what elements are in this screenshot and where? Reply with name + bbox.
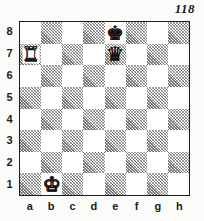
file-label-d: d (83, 199, 104, 213)
square-g2[interactable] (147, 152, 168, 174)
rank-label-5: 5 (3, 87, 16, 109)
square-e4[interactable] (105, 109, 126, 131)
square-e2[interactable] (105, 152, 126, 174)
black-king-e8[interactable]: ♚ (106, 23, 124, 43)
square-a8[interactable] (20, 22, 41, 44)
square-f4[interactable] (126, 109, 147, 131)
square-c4[interactable] (62, 109, 83, 131)
square-e1[interactable] (105, 173, 126, 195)
square-a2[interactable] (20, 152, 41, 174)
square-f1[interactable] (126, 173, 147, 195)
square-f8[interactable] (126, 22, 147, 44)
rank-label-8: 8 (3, 21, 16, 43)
square-d4[interactable] (83, 109, 104, 131)
file-label-g: g (147, 199, 168, 213)
square-b3[interactable] (41, 130, 62, 152)
square-b5[interactable] (41, 87, 62, 109)
square-a6[interactable] (20, 65, 41, 87)
rank-label-2: 2 (3, 152, 16, 174)
square-b2[interactable] (41, 152, 62, 174)
square-b4[interactable] (41, 109, 62, 131)
square-c7[interactable] (62, 44, 83, 66)
file-label-e: e (105, 199, 126, 213)
rank-label-7: 7 (3, 43, 16, 65)
file-label-c: c (62, 199, 83, 213)
black-queen-e7[interactable]: ♛ (106, 44, 124, 64)
square-a4[interactable] (20, 109, 41, 131)
square-h3[interactable] (168, 130, 189, 152)
square-h2[interactable] (168, 152, 189, 174)
square-f5[interactable] (126, 87, 147, 109)
square-e7[interactable]: ♛ (105, 44, 126, 66)
diagram-number: 118 (175, 1, 195, 17)
rank-label-6: 6 (3, 65, 16, 87)
square-a7[interactable]: ♜ (20, 44, 41, 66)
square-e3[interactable] (105, 130, 126, 152)
chess-board: ♚♜♛♚ (19, 21, 190, 196)
square-g6[interactable] (147, 65, 168, 87)
square-d1[interactable] (83, 173, 104, 195)
rank-label-3: 3 (3, 130, 16, 152)
square-h4[interactable] (168, 109, 189, 131)
square-d2[interactable] (83, 152, 104, 174)
file-label-a: a (19, 199, 40, 213)
square-g7[interactable] (147, 44, 168, 66)
board-grid: ♚♜♛♚ (20, 22, 189, 195)
file-label-h: h (169, 199, 190, 213)
square-g1[interactable] (147, 173, 168, 195)
square-a5[interactable] (20, 87, 41, 109)
rank-label-4: 4 (3, 109, 16, 131)
square-f3[interactable] (126, 130, 147, 152)
square-e5[interactable] (105, 87, 126, 109)
square-c1[interactable] (62, 173, 83, 195)
square-a3[interactable] (20, 130, 41, 152)
square-e8[interactable]: ♚ (105, 22, 126, 44)
square-c5[interactable] (62, 87, 83, 109)
square-f7[interactable] (126, 44, 147, 66)
square-a1[interactable] (20, 173, 41, 195)
square-b6[interactable] (41, 65, 62, 87)
square-h1[interactable] (168, 173, 189, 195)
square-e6[interactable] (105, 65, 126, 87)
square-h6[interactable] (168, 65, 189, 87)
file-label-f: f (126, 199, 147, 213)
square-d6[interactable] (83, 65, 104, 87)
square-c8[interactable] (62, 22, 83, 44)
square-g4[interactable] (147, 109, 168, 131)
square-c3[interactable] (62, 130, 83, 152)
square-d5[interactable] (83, 87, 104, 109)
square-c6[interactable] (62, 65, 83, 87)
square-c2[interactable] (62, 152, 83, 174)
square-g3[interactable] (147, 130, 168, 152)
square-h8[interactable] (168, 22, 189, 44)
square-d8[interactable] (83, 22, 104, 44)
square-g5[interactable] (147, 87, 168, 109)
square-h7[interactable] (168, 44, 189, 66)
square-h5[interactable] (168, 87, 189, 109)
square-f2[interactable] (126, 152, 147, 174)
square-d7[interactable] (83, 44, 104, 66)
file-label-b: b (40, 199, 61, 213)
square-f6[interactable] (126, 65, 147, 87)
square-b1[interactable]: ♚ (41, 173, 62, 195)
white-king-b1[interactable]: ♚ (43, 174, 61, 194)
square-b8[interactable] (41, 22, 62, 44)
rank-label-1: 1 (3, 174, 16, 196)
square-g8[interactable] (147, 22, 168, 44)
square-b7[interactable] (41, 44, 62, 66)
square-d3[interactable] (83, 130, 104, 152)
white-rook-a7[interactable]: ♜ (22, 44, 40, 64)
